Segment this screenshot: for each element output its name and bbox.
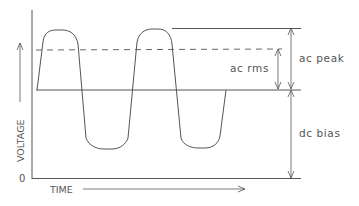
dc-bias-label: dc bias: [299, 127, 340, 139]
ac-rms-line: [36, 49, 282, 50]
ac-waveform: [37, 29, 226, 149]
origin-label: 0: [19, 173, 25, 184]
y-axis-label: VOLTAGE: [15, 119, 26, 162]
ac-peak-label: ac peak: [299, 52, 345, 64]
x-axis-label: TIME: [49, 184, 73, 195]
waveform-diagram: VOLTAGE TIME 0 ac rms ac peak dc bias: [0, 0, 359, 206]
ac-rms-label: ac rms: [230, 62, 269, 74]
